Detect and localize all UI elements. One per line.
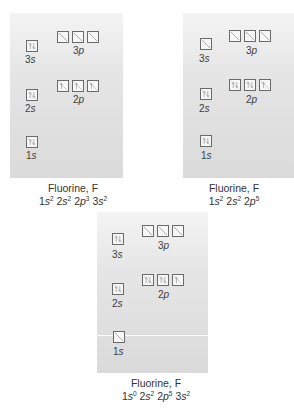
label-2p: 2p	[246, 95, 257, 105]
label-2s: 2s	[25, 104, 36, 114]
orbital-box-2s	[200, 88, 212, 100]
arrow-empty-icon	[245, 31, 255, 41]
label-3p: 3p	[246, 46, 257, 56]
label-2p: 2p	[73, 95, 84, 105]
orbital-box-2p-2	[72, 80, 84, 92]
arrow-empty-icon	[173, 226, 183, 236]
arrow-paired-icon	[27, 90, 37, 100]
element-title: Fluorine, F	[175, 182, 293, 195]
label-3s: 3s	[25, 55, 36, 65]
arrow-paired-icon	[158, 275, 168, 285]
orbital-box-2p-2	[157, 274, 169, 286]
arrow-up-icon	[58, 81, 68, 91]
arrow-paired-icon	[27, 137, 37, 147]
orbital-box-2s	[112, 283, 124, 295]
orbital-box-2p-1	[142, 274, 154, 286]
orbital-box-3p-3	[87, 31, 99, 43]
orbital-box-2p-3	[259, 79, 271, 91]
orbital-box-1s	[26, 136, 38, 148]
arrow-empty-icon	[143, 226, 153, 236]
arrow-up-icon	[73, 81, 83, 91]
arrow-paired-icon	[201, 89, 211, 99]
arrow-empty-icon	[260, 31, 270, 41]
caption-left: Fluorine, F 1s2 2s2 2p3 3s2	[10, 182, 136, 208]
arrow-empty-icon	[114, 332, 124, 342]
arrow-up-icon	[88, 81, 98, 91]
orbital-box-3p-3	[172, 225, 184, 237]
label-1s: 1s	[201, 151, 212, 161]
arrow-paired-icon	[113, 284, 123, 294]
orbital-diagram-right: 3s 3p 2s 2p 1s	[183, 13, 294, 178]
orbital-diagram-bottom: 3s 3p 2s 2p 1s	[97, 212, 208, 373]
arrow-empty-icon	[73, 32, 83, 42]
orbital-box-3p-1	[57, 31, 69, 43]
orbital-box-2p-3	[172, 274, 184, 286]
element-title: Fluorine, F	[97, 377, 215, 390]
electron-configuration: 1s2 2s2 2p3 3s2	[10, 195, 136, 208]
arrow-empty-icon	[158, 226, 168, 236]
label-3s: 3s	[199, 54, 210, 64]
caption-bottom: Fluorine, F 1s0 2s2 2p5 3s2	[97, 377, 215, 403]
orbital-box-3s	[26, 40, 38, 52]
orbital-box-3p-3	[259, 30, 271, 42]
label-3s: 3s	[112, 250, 123, 260]
arrow-paired-icon	[201, 136, 211, 146]
orbital-box-2p-3	[87, 80, 99, 92]
label-2s: 2s	[112, 299, 123, 309]
arrow-paired-icon	[143, 275, 153, 285]
arrow-up-icon	[173, 275, 183, 285]
orbital-box-1s	[113, 331, 125, 343]
orbital-box-3p-2	[244, 30, 256, 42]
orbital-box-3s	[112, 233, 124, 245]
orbital-box-2p-2	[244, 79, 256, 91]
arrow-paired-icon	[245, 80, 255, 90]
label-1s: 1s	[113, 347, 124, 357]
arrow-empty-icon	[201, 39, 211, 49]
label-3p: 3p	[158, 241, 169, 251]
label-2s: 2s	[199, 104, 210, 114]
electron-configuration: 1s0 2s2 2p5 3s2	[97, 390, 215, 403]
label-3p: 3p	[73, 46, 84, 56]
orbital-box-3p-2	[157, 225, 169, 237]
electron-configuration: 1s2 2s2 2p5	[175, 195, 293, 208]
arrow-empty-icon	[230, 31, 240, 41]
arrow-empty-icon	[88, 32, 98, 42]
orbital-box-2p-1	[57, 80, 69, 92]
arrow-paired-icon	[27, 41, 37, 51]
orbital-box-2p-1	[229, 79, 241, 91]
orbital-box-1s	[200, 135, 212, 147]
orbital-box-3s	[200, 38, 212, 50]
arrow-up-icon	[260, 80, 270, 90]
arrow-paired-icon	[113, 234, 123, 244]
arrow-paired-icon	[230, 80, 240, 90]
element-title: Fluorine, F	[10, 182, 136, 195]
caption-right: Fluorine, F 1s2 2s2 2p5	[175, 182, 293, 208]
orbital-box-3p-1	[142, 225, 154, 237]
orbital-box-3p-2	[72, 31, 84, 43]
orbital-box-3p-1	[229, 30, 241, 42]
arrow-empty-icon	[58, 32, 68, 42]
label-1s: 1s	[26, 151, 37, 161]
orbital-box-2s	[26, 89, 38, 101]
orbital-diagram-left: 3s 3p 2s 2p 1s	[10, 13, 123, 178]
label-2p: 2p	[158, 290, 169, 300]
